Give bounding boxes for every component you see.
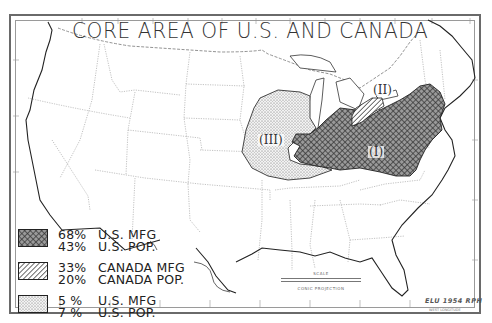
scale-title: SCALE (276, 271, 366, 276)
scale-bar-graphic (281, 278, 361, 282)
projection-label: CONIC PROJECTION (276, 286, 366, 291)
diagonal-hatch-swatch-icon (18, 262, 48, 280)
legend: 68% U.S. MFG 43% U.S. POP. 33% CANADA MF… (18, 228, 208, 323)
crosshatch-swatch-icon (18, 229, 48, 247)
legend-label: U.S. POP. (98, 240, 156, 253)
region-iii-label: (III) (258, 134, 284, 146)
map-title: CORE AREA OF U.S. AND CANADA (72, 19, 428, 43)
longitude-label: WEST LONGITUDE (429, 308, 461, 312)
legend-pct: 20% (58, 273, 86, 286)
legend-item-region-iii: 5 % U.S. MFG 7 % U.S. POP. (18, 294, 208, 323)
region-i-label: (I) (368, 146, 384, 158)
legend-pct: 43% (58, 240, 86, 253)
legend-item-region-ii: 33% CANADA MFG 20% CANADA POP. (18, 261, 208, 294)
legend-label: U.S. POP. (98, 306, 156, 319)
legend-label: CANADA POP. (98, 273, 184, 286)
scale-bar: SCALE CONIC PROJECTION (276, 271, 366, 291)
legend-item-region-i: 68% U.S. MFG 43% U.S. POP. (18, 228, 208, 261)
map-credit: ELU 1954 RPH (425, 297, 482, 305)
stipple-swatch-icon (18, 295, 48, 313)
region-ii-label: (II) (372, 84, 393, 96)
legend-pct: 7 % (58, 306, 82, 319)
